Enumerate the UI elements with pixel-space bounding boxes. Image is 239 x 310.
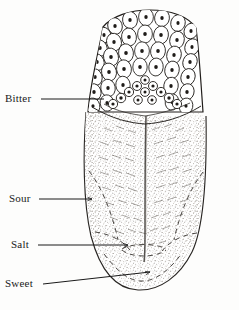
label-sour: Sour xyxy=(9,193,31,204)
label-sweet: Sweet xyxy=(5,278,33,289)
label-salt: Salt xyxy=(11,239,29,250)
tongue-taste-diagram: Bitter Sour Salt Sweet xyxy=(0,0,239,310)
diagram-canvas xyxy=(0,0,239,310)
label-bitter: Bitter xyxy=(5,93,31,104)
